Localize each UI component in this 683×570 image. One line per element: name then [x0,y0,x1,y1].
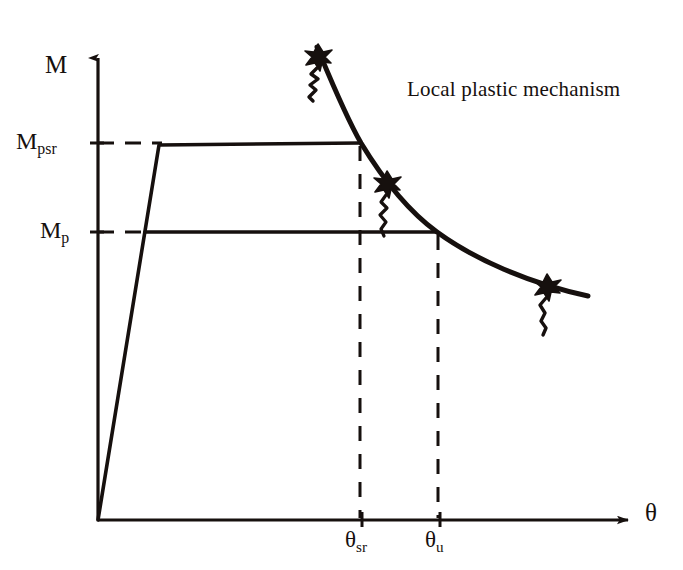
plastic-hinge-marker-2 [374,171,401,236]
response-curves-group [98,47,588,520]
strain-hardened-plastic-response-curve [98,143,360,520]
y-tick-label-Mpsr: Mpsr [16,129,57,153]
y-tick-label-Mp-base: M [40,217,61,243]
plastic-hinge-marker-1-tail [309,68,318,101]
y-tick-label-Mp: Mp [40,218,69,242]
x-tick-label-theta-u-base: θ [425,527,436,552]
x-tick-label-theta-sr-sub: sr [356,538,367,555]
plastic-hinge-marker-3 [534,274,561,335]
x-tick-label-theta-u-sub: u [436,538,444,555]
x-tick-label-theta-sr-base: θ [345,527,356,552]
tick-marks-group [90,143,440,527]
y-tick-label-Mpsr-base: M [16,128,37,154]
plastic-hinge-marker-2-tail [380,195,387,236]
y-tick-label-Mpsr-sub: psr [37,140,57,157]
moment-rotation-figure: M θ Mpsr Mp θsr θu Local plastic mechani… [0,0,683,570]
x-tick-label-theta-u: θu [425,528,444,551]
y-axis-symbol-label: M [45,52,67,77]
x-axis-symbol-text: θ [645,499,657,526]
x-axis-symbol-label: θ [645,500,657,525]
y-tick-label-Mp-sub: p [61,229,69,246]
local-plastic-mechanism-label: Local plastic mechanism [407,79,620,100]
x-tick-label-theta-sr: θsr [345,528,367,551]
plastic-hinge-marker-3-tail [540,298,546,335]
